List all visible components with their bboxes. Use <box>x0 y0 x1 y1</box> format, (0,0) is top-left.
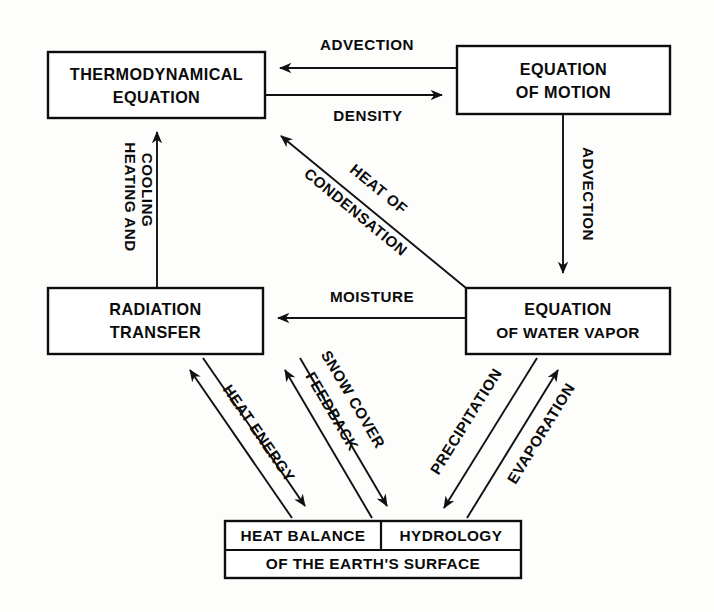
flow-diagram-svg: THERMODYNAMICAL EQUATION EQUATION OF MOT… <box>0 0 714 612</box>
diagram-canvas: THERMODYNAMICAL EQUATION EQUATION OF MOT… <box>0 0 714 612</box>
box-radiation-transfer-rect <box>48 288 263 354</box>
edge-advection-right: ADVECTION <box>563 114 597 273</box>
box-equation-of-water-vapor-rect <box>466 288 670 354</box>
edge-heating-and-cooling: HEATING AND COOLING <box>122 132 157 288</box>
box-equation-of-motion[interactable]: EQUATION OF MOTION <box>457 46 670 114</box>
box-radiation-transfer-line1: RADIATION <box>109 300 201 318</box>
edge-heating-and-cooling-label-line2: COOLING <box>139 153 156 227</box>
edge-advection-right-label: ADVECTION <box>580 147 597 241</box>
edge-precipitation: PRECIPITATION <box>426 358 537 508</box>
edge-density-label: DENSITY <box>333 107 402 124</box>
box-equation-of-motion-line1: EQUATION <box>520 60 607 78</box>
box-earth-surface[interactable]: HEAT BALANCE HYDROLOGY OF THE EARTH'S SU… <box>225 521 521 578</box>
box-equation-of-motion-rect <box>457 46 670 114</box>
box-equation-of-water-vapor-line2: OF WATER VAPOR <box>496 324 640 341</box>
edge-heat-of-condensation-line <box>281 136 466 288</box>
edge-heat-energy: HEAT ENERGY <box>190 358 305 518</box>
box-thermodynamical-equation-line1: THERMODYNAMICAL <box>70 65 243 83</box>
box-thermodynamical-equation[interactable]: THERMODYNAMICAL EQUATION <box>48 52 265 118</box>
edge-moisture-label: MOISTURE <box>330 288 414 305</box>
edge-advection-top: ADVECTION <box>280 36 457 68</box>
box-thermodynamical-equation-rect <box>48 52 265 118</box>
edge-heat-of-condensation: HEAT OF CONDENSATION <box>281 136 466 288</box>
edge-heating-and-cooling-label-line1: HEATING AND <box>122 142 139 251</box>
edge-advection-top-label: ADVECTION <box>320 36 414 53</box>
edge-precipitation-label: PRECIPITATION <box>426 365 504 477</box>
edge-density: DENSITY <box>265 95 442 124</box>
box-equation-of-water-vapor[interactable]: EQUATION OF WATER VAPOR <box>466 288 670 354</box>
box-thermodynamical-equation-line2: EQUATION <box>113 88 200 106</box>
box-radiation-transfer[interactable]: RADIATION TRANSFER <box>48 288 263 354</box>
edge-snow-cover-feedback: SNOW COVER FEEDBACK <box>285 347 389 518</box>
edge-moisture: MOISTURE <box>278 288 466 318</box>
box-earth-surface-heat-balance: HEAT BALANCE <box>240 527 365 544</box>
box-radiation-transfer-line2: TRANSFER <box>110 323 201 341</box>
box-earth-surface-hydrology: HYDROLOGY <box>400 527 503 544</box>
box-earth-surface-bottom-line: OF THE EARTH'S SURFACE <box>266 555 480 572</box>
box-equation-of-water-vapor-line1: EQUATION <box>524 300 611 318</box>
edge-evaporation-label: EVAPORATION <box>503 380 578 487</box>
box-equation-of-motion-line2: OF MOTION <box>516 83 611 101</box>
